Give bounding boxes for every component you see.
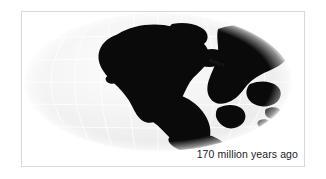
caption-text: 170 million years ago: [197, 148, 298, 160]
figure-root: Tethys 170 million years ago: [0, 0, 326, 179]
map-frame: Tethys 170 million years ago: [21, 11, 305, 167]
limb-fade: [22, 12, 294, 153]
caption: 170 million years ago: [197, 145, 298, 161]
